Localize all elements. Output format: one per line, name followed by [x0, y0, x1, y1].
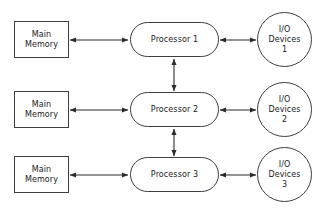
multiprocessor-diagram: Main Memory Processor 1 I/O Devices 1 Ma… [0, 0, 324, 215]
processor-2-label: Processor 2 [151, 105, 198, 115]
processor-3-label: Processor 3 [151, 170, 198, 180]
io-devices-3: I/O Devices 3 [257, 147, 312, 202]
main-memory-3-line1: Main [32, 165, 52, 175]
io-devices-3-line1: I/O [279, 160, 291, 170]
processor-3: Processor 3 [130, 157, 219, 192]
main-memory-2: Main Memory [14, 91, 69, 128]
io-devices-1-line3: 1 [282, 45, 287, 55]
main-memory-3-line2: Memory [25, 175, 58, 185]
io-devices-2-line3: 2 [282, 115, 287, 125]
io-devices-1-line2: Devices [268, 35, 300, 45]
main-memory-3: Main Memory [14, 156, 69, 193]
main-memory-2-line2: Memory [25, 110, 58, 120]
main-memory-2-line1: Main [32, 100, 52, 110]
io-devices-3-line2: Devices [268, 170, 300, 180]
io-devices-1-line1: I/O [279, 25, 291, 35]
processor-2: Processor 2 [130, 92, 219, 127]
io-devices-2-line2: Devices [268, 105, 300, 115]
io-devices-3-line3: 3 [282, 180, 287, 190]
processor-1: Processor 1 [130, 22, 219, 57]
io-devices-1: I/O Devices 1 [257, 12, 312, 67]
main-memory-1-line1: Main [32, 30, 52, 40]
main-memory-1: Main Memory [14, 21, 69, 58]
processor-1-label: Processor 1 [151, 35, 198, 45]
io-devices-2: I/O Devices 2 [257, 82, 312, 137]
main-memory-1-line2: Memory [25, 40, 58, 50]
io-devices-2-line1: I/O [279, 95, 291, 105]
